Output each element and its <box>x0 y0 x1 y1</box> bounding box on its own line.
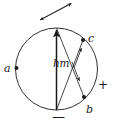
geometric-diagram-figure: a b c hm + — <box>0 0 113 126</box>
chord-c-to-bottom-arrowhead <box>74 48 82 68</box>
point-marker-a <box>15 66 19 70</box>
polarity-positive-label: + <box>98 79 108 91</box>
point-marker-c <box>81 38 85 42</box>
point-marker-b <box>82 95 86 99</box>
chord-c-to-bottom <box>57 40 84 110</box>
cross-arrow-lower-left <box>40 4 71 21</box>
point-label-b: b <box>86 104 93 115</box>
chord-top-to-b-arrowhead <box>72 62 80 81</box>
point-label-c: c <box>88 33 94 44</box>
point-label-a: a <box>4 63 11 74</box>
polarity-negative-label: — <box>52 110 65 123</box>
hm-vector-label: hm <box>53 58 69 69</box>
